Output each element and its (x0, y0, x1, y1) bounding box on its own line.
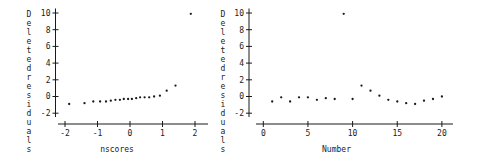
y-axis-letter: l (221, 136, 226, 145)
y-axis-letter: e (27, 19, 32, 28)
data-point (414, 103, 416, 105)
data-points (271, 13, 443, 106)
data-point (110, 100, 112, 102)
data-point (307, 96, 309, 98)
x-tick-label: -1 (93, 129, 103, 138)
data-point (334, 98, 336, 100)
data-point (131, 98, 133, 100)
y-axis-letter: e (27, 55, 32, 64)
y-axis-letter: r (27, 73, 32, 82)
residual-plots-canvas: Deletedresiduals1086420-2-2-1012nscoresD… (0, 0, 478, 162)
y-tick-label: 10 (41, 9, 51, 18)
data-points (68, 13, 192, 106)
x-axis: 05101520Number (256, 121, 453, 154)
y-tick-label: 4 (239, 59, 244, 68)
data-point (432, 98, 434, 100)
data-point (105, 100, 107, 102)
residual-plots-screen: Deletedresiduals1086420-2-2-1012nscoresD… (0, 0, 478, 162)
y-axis: 1086420-2 (41, 9, 59, 119)
y-tick-label: 6 (46, 42, 51, 51)
y-axis-letter: e (221, 82, 226, 91)
y-tick-label: 8 (239, 26, 244, 35)
data-point (99, 100, 101, 102)
data-point (83, 102, 85, 104)
y-axis-letter: e (221, 19, 226, 28)
data-point (369, 90, 371, 92)
y-axis-label: Deletedresiduals (221, 10, 226, 154)
data-point (360, 84, 362, 86)
y-axis-letter: D (27, 10, 32, 19)
data-point (159, 95, 161, 97)
y-axis-letter: u (221, 118, 226, 127)
x-tick-label: 2 (193, 129, 198, 138)
y-axis-letter: i (221, 100, 226, 109)
x-tick-label: 20 (437, 129, 447, 138)
y-axis-letter: u (27, 118, 32, 127)
y-tick-label: 2 (239, 76, 244, 85)
data-point (68, 103, 70, 105)
y-axis-letter: d (27, 64, 32, 73)
data-point (343, 13, 345, 15)
y-tick-label: 0 (46, 92, 51, 101)
data-point (387, 99, 389, 101)
data-point (271, 100, 273, 102)
nscores-plot: Deletedresiduals1086420-2-2-1012nscores (27, 9, 208, 155)
y-axis: 1086420-2 (234, 9, 252, 119)
data-point (405, 102, 407, 104)
y-axis-letter: s (27, 145, 32, 154)
y-axis-letter: s (221, 145, 226, 154)
data-point (123, 98, 125, 100)
y-axis-label: Deletedresiduals (27, 10, 32, 154)
y-axis-letter: a (27, 127, 32, 136)
x-axis-title: nscores (100, 145, 134, 154)
x-axis: -2-1012nscores (58, 121, 208, 154)
data-point (114, 99, 116, 101)
data-point (166, 90, 168, 92)
y-axis-letter: D (221, 10, 226, 19)
y-tick-label: 0 (239, 92, 244, 101)
data-point (441, 95, 443, 97)
y-tick-label: 2 (46, 76, 51, 85)
data-point (351, 98, 353, 100)
y-tick-label: -2 (234, 109, 244, 118)
y-axis-letter: e (221, 55, 226, 64)
data-point (396, 100, 398, 102)
y-axis-letter: t (221, 46, 226, 55)
data-point (127, 98, 129, 100)
data-point (423, 100, 425, 102)
y-tick-label: 8 (46, 26, 51, 35)
data-point (143, 96, 145, 98)
x-tick-label: 0 (128, 129, 133, 138)
x-tick-label: -2 (60, 129, 70, 138)
data-point (148, 96, 150, 98)
y-axis-letter: r (221, 73, 226, 82)
x-tick-label: 15 (392, 129, 402, 138)
number-plot: Deletedresiduals1086420-205101520Number (221, 9, 453, 155)
y-axis-letter: t (27, 46, 32, 55)
y-tick-label: -2 (41, 109, 51, 118)
x-axis-title: Number (322, 145, 351, 154)
y-axis-letter: s (27, 91, 32, 100)
y-axis-letter: e (221, 37, 226, 46)
y-axis-letter: e (27, 37, 32, 46)
y-axis-letter: e (27, 82, 32, 91)
y-axis-letter: s (221, 91, 226, 100)
data-point (153, 95, 155, 97)
x-tick-label: 1 (160, 129, 165, 138)
data-point (280, 96, 282, 98)
y-tick-label: 4 (46, 59, 51, 68)
data-point (325, 97, 327, 99)
data-point (174, 84, 176, 86)
y-tick-label: 6 (239, 42, 244, 51)
data-point (92, 100, 94, 102)
data-point (378, 95, 380, 97)
y-axis-letter: d (27, 109, 32, 118)
x-tick-label: 10 (348, 129, 358, 138)
data-point (190, 13, 192, 15)
y-axis-letter: l (27, 28, 32, 37)
y-axis-letter: l (27, 136, 32, 145)
x-tick-label: 5 (306, 129, 311, 138)
y-axis-letter: a (221, 127, 226, 136)
y-axis-letter: d (221, 64, 226, 73)
data-point (139, 96, 141, 98)
